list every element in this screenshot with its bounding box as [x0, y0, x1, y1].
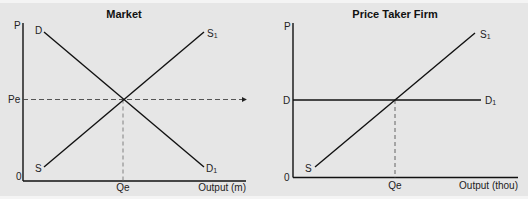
- firm-x-axis-label: Output (thou): [459, 180, 518, 191]
- firm-quantity-label: Qe: [388, 180, 402, 191]
- firm-supply-start-label: S: [305, 163, 312, 174]
- firm-title: Price Taker Firm: [352, 8, 438, 20]
- firm-panel: Price Taker Firm P S1 D D1 S 0 Qe Output…: [283, 8, 518, 191]
- market-x-axis-label: Output (m): [198, 182, 246, 193]
- market-supply-start-label: S: [35, 163, 42, 174]
- firm-y-axis-label: P: [284, 21, 291, 32]
- market-price-label: Pe: [8, 94, 21, 105]
- firm-demand-end-label: D1: [485, 95, 496, 106]
- firm-origin-label: 0: [284, 172, 290, 183]
- market-quantity-label: Qe: [116, 182, 130, 193]
- firm-price-label: D: [283, 95, 290, 106]
- firm-supply-end-label: S1: [480, 29, 491, 40]
- market-demand-start-label: D: [35, 25, 42, 36]
- supply-demand-diagram: Market P D S1 Pe S D1 0 Qe Output (m) Pr…: [0, 0, 528, 199]
- market-supply-end-label: S1: [207, 28, 218, 39]
- market-title: Market: [106, 8, 142, 20]
- market-panel: Market P D S1 Pe S D1 0 Qe Output (m): [8, 8, 246, 193]
- market-demand-end-label: D1: [206, 163, 217, 174]
- market-y-axis-label: P: [14, 20, 21, 31]
- market-origin-label: 0: [16, 171, 22, 182]
